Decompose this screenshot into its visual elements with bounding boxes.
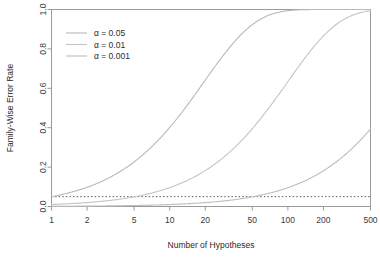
x-tick-label-6: 100 [281, 215, 295, 225]
y-tick-label-3: 0.6 [38, 82, 48, 94]
y-axis-tick-labels: 0.00.20.40.60.81.0 [38, 3, 48, 212]
x-tick-label-3: 10 [165, 215, 175, 225]
x-tick-label-4: 20 [201, 215, 211, 225]
y-tick-label-5: 1.0 [38, 3, 48, 15]
chart-figure: 0.00.20.40.60.81.0 125102050100200500 α … [0, 0, 380, 264]
y-axis-ticks [48, 10, 52, 207]
legend-label-0: α = 0.05 [94, 28, 125, 38]
legend-label-2: α = 0.001 [94, 51, 130, 61]
x-axis-tick-labels: 125102050100200500 [49, 215, 378, 225]
x-tick-label-1: 2 [85, 215, 90, 225]
x-axis-title: Number of Hypotheses [168, 240, 255, 250]
x-tick-label-0: 1 [49, 215, 54, 225]
x-axis-ticks [52, 207, 371, 211]
fwer-line-chart: 0.00.20.40.60.81.0 125102050100200500 α … [0, 0, 380, 264]
y-tick-label-2: 0.4 [38, 122, 48, 134]
x-tick-label-8: 500 [363, 215, 377, 225]
x-tick-label-5: 50 [248, 215, 258, 225]
x-tick-label-7: 200 [316, 215, 330, 225]
y-tick-label-4: 0.8 [38, 43, 48, 55]
curve-series-2 [52, 129, 371, 206]
y-tick-label-1: 0.2 [38, 161, 48, 173]
chart-legend: α = 0.05α = 0.01α = 0.001 [66, 28, 130, 61]
x-tick-label-2: 5 [132, 215, 137, 225]
legend-label-1: α = 0.01 [94, 40, 125, 50]
y-axis-title: Family-Wise Error Rate [5, 64, 15, 153]
y-tick-label-0: 0.0 [38, 200, 48, 212]
